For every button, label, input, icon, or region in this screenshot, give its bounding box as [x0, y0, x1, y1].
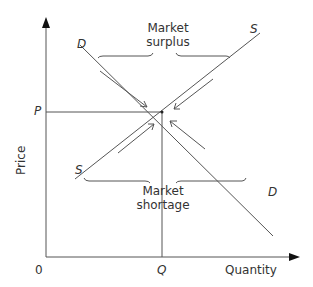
surplus-line-2: surplus [143, 35, 193, 49]
origin-label: 0 [35, 263, 43, 277]
surplus-bracket [98, 53, 230, 58]
supply-curve [75, 33, 260, 179]
demand-lower-arrow [170, 121, 205, 149]
demand-label-bottom: D [268, 185, 277, 199]
price-label-p: P [34, 104, 41, 118]
supply-lower-arrow [118, 124, 154, 153]
shortage-bracket [84, 178, 246, 183]
demand-upper-arrow [100, 71, 147, 107]
y-axis-arrowhead [42, 17, 50, 28]
supply-label-bottom: S [75, 163, 83, 177]
demand-label-top: D [77, 37, 86, 51]
y-axis-label: Price [14, 146, 28, 175]
shortage-line-1: Market [133, 184, 193, 198]
market-shortage-label: Market shortage [133, 184, 193, 212]
x-axis-arrowhead [289, 253, 300, 261]
surplus-line-1: Market [143, 21, 193, 35]
equilibrium-point [161, 111, 164, 114]
shortage-line-2: shortage [133, 198, 193, 212]
market-surplus-label: Market surplus [143, 21, 193, 49]
x-axis-label: Quantity [225, 263, 277, 277]
quantity-label-q: Q [157, 263, 166, 277]
supply-label-top: S [250, 22, 258, 36]
supply-upper-arrow [174, 79, 213, 109]
